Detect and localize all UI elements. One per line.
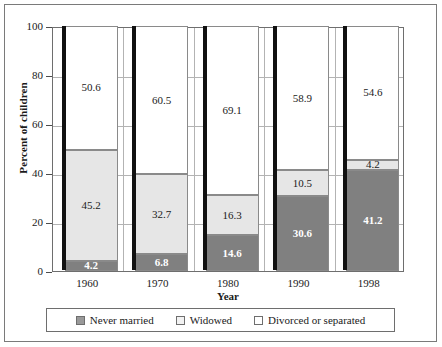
- x-gridline: [123, 28, 124, 271]
- x-tick-label: 1998: [339, 277, 399, 289]
- bar-segment[interactable]: 60.5: [135, 26, 188, 174]
- bar-value-label: 14.6: [222, 248, 241, 259]
- bar-value-label: 10.5: [293, 178, 312, 189]
- legend-item[interactable]: Widowed: [176, 314, 232, 326]
- bar-stack-1990[interactable]: 30.610.558.9: [276, 26, 329, 271]
- bar-left-edge-rule: [132, 26, 136, 270]
- x-gridline: [194, 28, 195, 271]
- bar-left-edge-rule: [343, 26, 347, 270]
- bar-value-label: 50.6: [82, 82, 101, 93]
- legend-label: Divorced or separated: [268, 314, 365, 326]
- bar-value-label: 16.3: [222, 210, 241, 221]
- bar-segment[interactable]: 30.6: [276, 196, 329, 271]
- x-gridline: [264, 28, 265, 271]
- bar-left-edge-rule: [62, 26, 66, 270]
- bar-segment[interactable]: 4.2: [65, 261, 118, 271]
- bar-segment[interactable]: 41.2: [346, 170, 399, 271]
- y-tick-label: 40: [13, 167, 43, 179]
- bar-stack-1998[interactable]: 41.24.254.6: [346, 26, 399, 271]
- bar-value-label: 30.6: [293, 228, 312, 239]
- y-tick-mark: [46, 272, 52, 273]
- legend-swatch-icon: [176, 316, 185, 325]
- y-tick-label: 100: [13, 20, 43, 32]
- bar-segment[interactable]: 10.5: [276, 170, 329, 196]
- bar-segment[interactable]: 50.6: [65, 26, 118, 150]
- bar-value-label: 58.9: [293, 93, 312, 104]
- bar-value-label: 69.1: [222, 105, 241, 116]
- bar-value-label: 4.2: [84, 260, 98, 271]
- bar-value-label: 60.5: [152, 95, 171, 106]
- bar-left-edge-rule: [203, 26, 207, 270]
- bar-segment[interactable]: 45.2: [65, 150, 118, 261]
- x-tick-label: 1990: [268, 277, 328, 289]
- y-tick-label: 60: [13, 118, 43, 130]
- bar-left-edge-rule: [273, 26, 277, 270]
- bar-segment[interactable]: 6.8: [135, 254, 188, 271]
- plot-area: 4.245.250.66.832.760.514.616.369.130.610…: [52, 27, 404, 272]
- x-gridline: [335, 28, 336, 271]
- x-axis-title: Year: [52, 290, 404, 302]
- legend-label: Never married: [90, 314, 154, 326]
- x-tick-label: 1970: [128, 277, 188, 289]
- bar-segment[interactable]: 16.3: [206, 195, 259, 235]
- bar-segment[interactable]: 54.6: [346, 26, 399, 160]
- bar-segment[interactable]: 58.9: [276, 26, 329, 170]
- x-tick-label: 1960: [57, 277, 117, 289]
- bar-stack-1960[interactable]: 4.245.250.6: [65, 26, 118, 271]
- chart-legend: Never marriedWidowedDivorced or separate…: [46, 308, 395, 332]
- y-tick-label: 80: [13, 69, 43, 81]
- legend-label: Widowed: [190, 314, 232, 326]
- bar-value-label: 45.2: [82, 200, 101, 211]
- legend-swatch-icon: [76, 316, 85, 325]
- bar-value-label: 41.2: [363, 215, 382, 226]
- legend-swatch-icon: [254, 316, 263, 325]
- y-tick-label: 0: [13, 265, 43, 277]
- legend-item[interactable]: Never married: [76, 314, 154, 326]
- y-tick-label: 20: [13, 216, 43, 228]
- legend-item[interactable]: Divorced or separated: [254, 314, 365, 326]
- x-tick-label: 1980: [198, 277, 258, 289]
- bar-value-label: 4.2: [366, 159, 380, 170]
- bar-segment[interactable]: 69.1: [206, 26, 259, 195]
- bar-segment[interactable]: 14.6: [206, 235, 259, 271]
- bar-stack-1980[interactable]: 14.616.369.1: [206, 26, 259, 271]
- bar-value-label: 6.8: [155, 257, 169, 268]
- bar-segment[interactable]: 32.7: [135, 174, 188, 254]
- chart-screenshot: Percent of children 020406080100 4.245.2…: [0, 0, 442, 347]
- bar-value-label: 32.7: [152, 209, 171, 220]
- bar-segment[interactable]: 4.2: [346, 160, 399, 170]
- bar-stack-1970[interactable]: 6.832.760.5: [135, 26, 188, 271]
- bar-value-label: 54.6: [363, 87, 382, 98]
